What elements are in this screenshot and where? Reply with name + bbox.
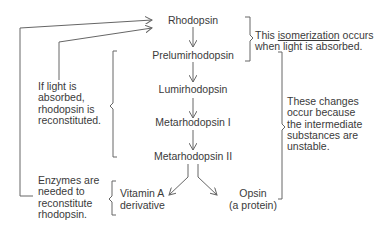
product-vitamin-a-line2: derivative — [120, 200, 165, 212]
product-vitamin-a-line1: Vitamin A — [120, 188, 165, 200]
product-opsin-line1: Opsin — [218, 188, 288, 200]
product-opsin: Opsin (a protein) — [218, 188, 288, 211]
step-rhodopsin: Rhodopsin — [153, 15, 233, 26]
light-feedback-line — [59, 28, 152, 80]
note-enzymes-line: rhodopsin. — [38, 209, 99, 220]
step-prelumirhodopsin: Prelumirhodopsin — [143, 50, 243, 61]
step-metarhodopsin-1: Metarhodopsin I — [143, 117, 243, 128]
note-isomerization-term: isomerization — [278, 29, 340, 41]
note-isomerization-line2: when light is absorbed. — [255, 41, 373, 52]
bracket-isomerization — [245, 17, 253, 61]
arrow-to-opsin — [198, 164, 217, 195]
step-lumirhodopsin: Lumirhodopsin — [143, 84, 243, 95]
note-changes-line: unstable. — [287, 141, 362, 152]
bracket-light-absorbed — [110, 51, 117, 157]
note-isomerization-post: occurs — [340, 29, 374, 41]
note-changes-line: occur because — [287, 107, 362, 118]
product-vitamin-a: Vitamin A derivative — [120, 188, 165, 211]
note-enzymes: Enzymes are needed to reconstitute rhodo… — [38, 175, 99, 220]
step-metarhodopsin-2: Metarhodopsin II — [143, 151, 243, 162]
bracket-enzymes — [109, 181, 116, 215]
note-light-line: reconstituted. — [38, 115, 101, 126]
note-changes: These changes occur because the intermed… — [287, 96, 362, 152]
bracket-changes — [278, 52, 285, 199]
note-isomerization-pre: This — [255, 29, 278, 41]
note-light-absorbed: If light is absorbed, rhodopsin is recon… — [38, 81, 101, 126]
note-light-line: absorbed, — [38, 92, 101, 103]
arrow-to-vitamin-a — [169, 164, 188, 195]
note-isomerization: This isomerization occurs when light is … — [255, 30, 373, 53]
product-opsin-line2: (a protein) — [218, 200, 288, 212]
note-enzymes-line: needed to — [38, 186, 99, 197]
